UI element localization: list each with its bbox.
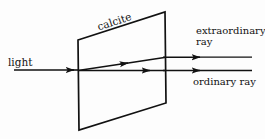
label-ordinary-ray: ordinary ray — [193, 76, 256, 87]
label-light: light — [8, 57, 32, 68]
label-extraordinary-line2: ray — [196, 36, 265, 47]
label-extraordinary-line1: extraordinary — [196, 25, 265, 36]
extraordinary-ray-inside-cont — [120, 57, 166, 64]
label-extraordinary-ray: extraordinary ray — [196, 25, 265, 47]
